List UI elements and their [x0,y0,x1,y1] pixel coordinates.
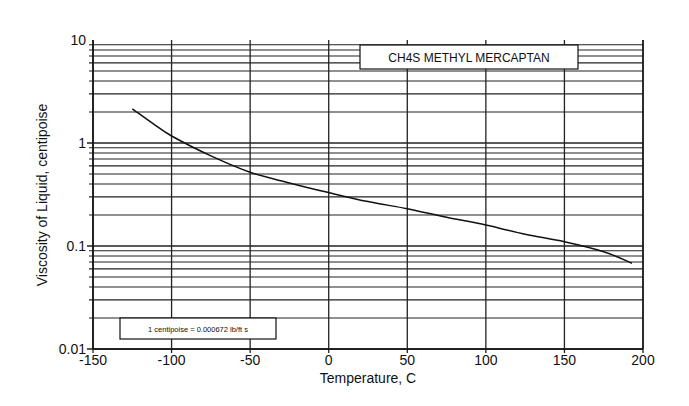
y-axis-title: Viscosity of Liquid, centipoise [34,103,50,286]
unit-conversion-note: 1 centipoise = 0.000672 lb/ft s [148,325,248,334]
viscosity-chart: -150-100-500501001502000.010.1110 CH4S M… [0,0,689,406]
y-tick-label: 10 [70,32,86,48]
x-tick-label: 0 [325,352,333,368]
title-box: CH4S METHYL MERCAPTAN [360,45,578,69]
y-tick-label: 1 [78,135,86,151]
y-tick-label: 0.01 [59,341,86,357]
x-tick-label: -50 [240,352,260,368]
annotation-box: 1 centipoise = 0.000672 lb/ft s [120,318,276,339]
grid-lines [87,40,643,353]
x-tick-label: 150 [553,352,577,368]
y-tick-label: 0.1 [67,238,87,254]
data-series [132,109,632,263]
x-tick-label: 200 [631,352,655,368]
x-tick-label: 50 [399,352,415,368]
chart-title: CH4S METHYL MERCAPTAN [388,51,549,65]
x-tick-label: -100 [158,352,186,368]
x-tick-label: 100 [474,352,498,368]
axes [93,40,643,349]
viscosity-curve [132,109,632,263]
x-axis-title: Temperature, C [320,370,416,386]
